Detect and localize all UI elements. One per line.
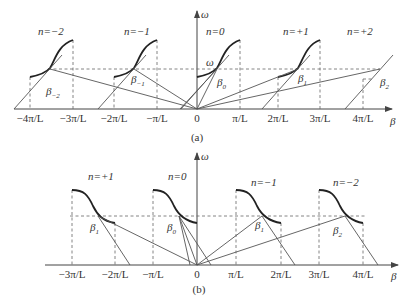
- svg-text:β1: β1: [297, 72, 307, 87]
- omega-axis-label: ω: [201, 8, 209, 20]
- svg-text:β0: β0: [216, 76, 226, 91]
- beta-label-n0: β0: [166, 221, 176, 236]
- beta-axis-ticks: −3π/L −2π/L −π/L 0 π/L 2π/L 3π/L 4π/L: [58, 268, 373, 280]
- harmonic-label-n1: n=+1: [88, 170, 114, 182]
- svg-text:4π/L: 4π/L: [353, 112, 374, 124]
- svg-text:2π/L: 2π/L: [268, 112, 289, 124]
- svg-text:−3π/L: −3π/L: [58, 268, 85, 280]
- dispersion-curve-n1: [72, 190, 115, 223]
- caption-b: (b): [193, 283, 206, 296]
- beta-label-n2: β2: [379, 76, 389, 91]
- dispersion-curve-n0: [153, 190, 197, 223]
- space-harmonics-figure: ω β n=−2 n=−1 n=0 n: [0, 0, 412, 302]
- harmonic-label-n0: n=0: [206, 25, 225, 37]
- svg-text:3π/L: 3π/L: [310, 112, 331, 124]
- dispersion-curve-n-2: [30, 40, 73, 77]
- svg-text:β0: β0: [166, 221, 176, 236]
- svg-text:−2π/L: −2π/L: [100, 112, 127, 124]
- svg-text:2π/L: 2π/L: [271, 268, 292, 280]
- beta-axis-label: β: [390, 270, 397, 282]
- beta-axis-ticks: −4π/L −3π/L −2π/L −π/L 0 π/L 2π/L 3π/L 4…: [16, 112, 373, 124]
- svg-text:β−1: β−1: [130, 73, 145, 88]
- beta-axis-label: β: [389, 115, 396, 127]
- svg-text:π/L: π/L: [232, 112, 248, 124]
- beta-label-n0: β0: [216, 76, 226, 91]
- diagram-a: ω β n=−2 n=−1 n=0 n: [14, 8, 396, 144]
- svg-text:−π/L: −π/L: [142, 268, 164, 280]
- dispersion-curve-n-1: [114, 40, 157, 77]
- svg-text:4π/L: 4π/L: [353, 268, 374, 280]
- svg-text:β1: β1: [89, 221, 99, 236]
- dispersion-curve-n-2: [319, 190, 363, 223]
- omega-axis-label: ω: [201, 150, 209, 162]
- harmonic-label-n-1: n=−1: [124, 25, 150, 37]
- harmonic-label-n-1: n=−1: [251, 176, 277, 188]
- svg-text:β2: β2: [332, 224, 342, 239]
- svg-text:−2π/L: −2π/L: [101, 268, 128, 280]
- svg-text:0: 0: [194, 112, 200, 124]
- harmonic-label-n0: n=0: [168, 170, 187, 182]
- beta-label-n1: β1: [297, 72, 307, 87]
- svg-text:3π/L: 3π/L: [309, 268, 330, 280]
- caption-a: (a): [191, 131, 204, 144]
- dispersion-curve-n0: [197, 40, 240, 77]
- svg-text:β2: β2: [379, 76, 389, 91]
- svg-text:β1: β1: [254, 219, 264, 234]
- beta-label-n1: β1: [89, 221, 99, 236]
- operating-omega-label: ω: [206, 56, 214, 68]
- harmonic-label-n-2: n=−2: [333, 176, 359, 188]
- beta-label-n-2: β−2: [45, 85, 60, 100]
- harmonic-label-n-2: n=−2: [38, 25, 64, 37]
- diagram-b: ω β n=+1 n=0 n=−1 n=−2 β1: [45, 150, 398, 296]
- svg-text:−3π/L: −3π/L: [59, 112, 86, 124]
- svg-text:−π/L: −π/L: [146, 112, 168, 124]
- harmonic-label-n2: n=+2: [347, 25, 373, 37]
- beta-label-n-1: β−1: [130, 73, 145, 88]
- svg-text:0: 0: [194, 268, 200, 280]
- harmonic-label-n1: n=+1: [283, 25, 309, 37]
- svg-text:β−2: β−2: [45, 85, 60, 100]
- svg-text:π/L: π/L: [228, 268, 244, 280]
- beta-label-n-2: β2: [332, 224, 342, 239]
- beta-label-n-1: β1: [254, 219, 264, 234]
- svg-text:−4π/L: −4π/L: [16, 112, 43, 124]
